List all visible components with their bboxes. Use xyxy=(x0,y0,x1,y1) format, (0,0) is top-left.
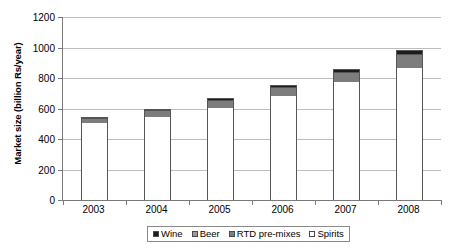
x-axis-label-2008: 2008 xyxy=(377,204,440,215)
bar-segment-beer[interactable] xyxy=(397,54,423,68)
legend-item-rtd-pre-mixes[interactable]: RTD pre-mixes xyxy=(229,228,301,239)
bar-segment-spirits[interactable] xyxy=(334,82,360,200)
bar-segment-beer[interactable] xyxy=(271,87,297,96)
legend-item-beer[interactable]: Beer xyxy=(192,228,220,239)
y-axis-tick-label: 400 xyxy=(15,134,55,145)
x-axis-label-2005: 2005 xyxy=(188,204,251,215)
bar-slot xyxy=(126,17,189,200)
x-axis-label-2004: 2004 xyxy=(125,204,188,215)
bar-slot xyxy=(63,17,126,200)
x-axis-label-2007: 2007 xyxy=(314,204,377,215)
bar-2008[interactable] xyxy=(396,50,424,200)
x-axis-tick xyxy=(441,200,442,205)
beer-swatch-icon xyxy=(192,231,198,237)
stacked-column-chart: Market size (billion Rs/year) 0200400600… xyxy=(0,0,455,252)
bar-slot xyxy=(189,17,252,200)
x-axis-label-2006: 2006 xyxy=(251,204,314,215)
bar-segment-spirits[interactable] xyxy=(208,108,234,200)
bar-segment-beer[interactable] xyxy=(145,110,171,117)
y-axis-tick-label: 600 xyxy=(15,103,55,114)
bar-2004[interactable] xyxy=(144,109,172,201)
wine-swatch-icon xyxy=(153,231,159,237)
y-axis-tick-label: 0 xyxy=(15,195,55,206)
rtd-pre-mixes-swatch-icon xyxy=(229,231,235,237)
y-axis-tick-label: 1200 xyxy=(15,12,55,23)
bar-2003[interactable] xyxy=(81,117,109,200)
legend-label-beer: Beer xyxy=(200,228,220,239)
bar-segment-spirits[interactable] xyxy=(271,96,297,200)
x-axis-labels: 200320042005200620072008 xyxy=(62,204,440,215)
y-axis-tick-label: 800 xyxy=(15,73,55,84)
bar-segment-spirits[interactable] xyxy=(145,117,171,200)
bar-2006[interactable] xyxy=(270,85,298,200)
y-axis-tick-label: 200 xyxy=(15,164,55,175)
bar-segment-beer[interactable] xyxy=(334,72,360,83)
x-axis-label-2003: 2003 xyxy=(62,204,125,215)
legend-item-spirits[interactable]: Spirits xyxy=(309,228,343,239)
bar-slot xyxy=(378,17,441,200)
bar-segment-spirits[interactable] xyxy=(82,123,108,200)
bar-2007[interactable] xyxy=(333,69,361,200)
legend-item-wine[interactable]: Wine xyxy=(153,228,183,239)
spirits-swatch-icon xyxy=(309,231,315,237)
y-axis-tick-label: 1000 xyxy=(15,42,55,53)
plot-area: 020040060080010001200 xyxy=(62,17,441,201)
legend-label-rtd-pre-mixes: RTD pre-mixes xyxy=(237,228,301,239)
bar-slot xyxy=(252,17,315,200)
legend-label-wine: Wine xyxy=(161,228,183,239)
bar-segment-beer[interactable] xyxy=(208,100,234,108)
bar-slot xyxy=(315,17,378,200)
legend-label-spirits: Spirits xyxy=(317,228,343,239)
chart-legend: Wine Beer RTD pre-mixes Spirits xyxy=(147,226,350,242)
bars-layer xyxy=(63,17,441,200)
bar-segment-spirits[interactable] xyxy=(397,68,423,200)
bar-2005[interactable] xyxy=(207,98,235,200)
